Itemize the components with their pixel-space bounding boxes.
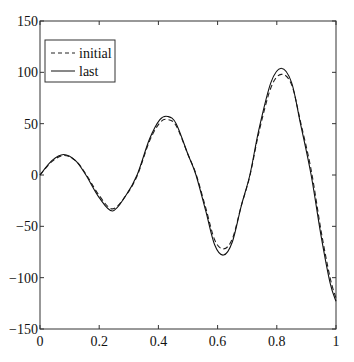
x-tick-label: 0.8 bbox=[268, 334, 286, 349]
y-tick-label: 100 bbox=[17, 65, 38, 80]
legend-label-last: last bbox=[79, 64, 99, 79]
legend-label-initial: initial bbox=[79, 46, 112, 61]
y-tick-label: −50 bbox=[16, 219, 38, 234]
y-tick-label: 150 bbox=[17, 14, 38, 29]
y-tick-label: 0 bbox=[31, 168, 38, 183]
x-tick-label: 1 bbox=[333, 334, 340, 349]
x-tick-label: 0.6 bbox=[209, 334, 227, 349]
series-line-last bbox=[40, 68, 336, 301]
x-tick-label: 0.2 bbox=[90, 334, 108, 349]
y-tick-label: 50 bbox=[24, 117, 38, 132]
x-tick-label: 0.4 bbox=[150, 334, 168, 349]
y-tick-label: −100 bbox=[9, 271, 38, 286]
line-chart: 00.20.40.60.81−150−100−50050100150 initi… bbox=[0, 0, 354, 362]
series-line-initial bbox=[40, 74, 336, 298]
legend: initial last bbox=[45, 40, 115, 82]
series-group bbox=[40, 68, 336, 301]
y-tick-label: −150 bbox=[9, 322, 38, 337]
